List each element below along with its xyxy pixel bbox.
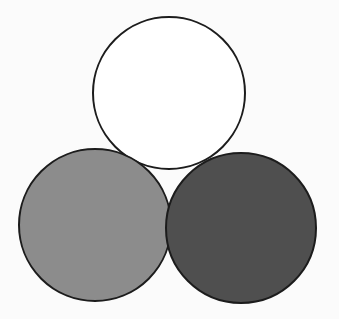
top-circle [93,17,245,169]
bottom-left-circle [19,149,171,301]
bottom-right-circle [166,153,316,303]
diagram-canvas [0,0,339,319]
three-circles-diagram [0,0,339,319]
